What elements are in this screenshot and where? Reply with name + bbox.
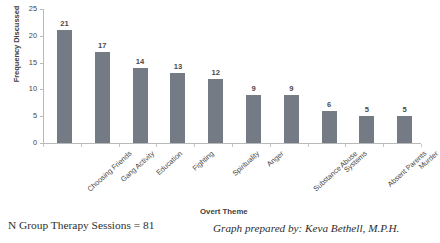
x-axis-category-label: Fighting (190, 149, 215, 173)
x-axis-tick-mark (421, 144, 422, 147)
bar-value-label: 13 (163, 62, 193, 71)
y-axis-tick-mark (40, 116, 44, 117)
y-axis-tick-label: 0 (7, 139, 37, 147)
bar-value-label: 14 (125, 57, 155, 66)
x-axis-category-label: Education (154, 149, 184, 177)
x-axis-category-label: Anger (264, 149, 284, 169)
y-axis-tick-label: 25 (7, 5, 37, 13)
bar-value-label: 9 (239, 84, 269, 93)
x-axis-tick-mark (156, 144, 157, 147)
bar (57, 30, 72, 143)
y-axis-tick-mark (40, 63, 44, 64)
y-axis-title: Frequency Discussed (12, 0, 24, 94)
bar-value-label: 9 (276, 84, 306, 93)
x-axis-tick-mark (308, 144, 309, 147)
x-axis-category-label: Substance Abuse (312, 149, 360, 193)
y-axis-tick-label: 5 (7, 112, 37, 120)
bar-value-label: 17 (87, 41, 117, 50)
bar-value-label: 12 (201, 68, 231, 77)
bar-value-label: 5 (390, 105, 420, 114)
x-axis-tick-mark (119, 144, 120, 147)
y-axis-line (43, 9, 44, 144)
y-axis-tick-mark (40, 36, 44, 37)
bar-value-label: 5 (352, 105, 382, 114)
y-axis-tick-mark (40, 9, 44, 10)
plot-area: 0510152025 211714131299655 (43, 9, 421, 144)
x-axis-tick-mark (81, 144, 82, 147)
graph-credit-note: Graph prepared by: Keva Bethell, M.P.H. (213, 222, 399, 234)
bar (208, 79, 223, 143)
x-axis-tick-mark (270, 144, 271, 147)
bar (246, 95, 261, 143)
x-axis-tick-mark (345, 144, 346, 147)
bar (170, 73, 185, 143)
x-axis-tick-mark (383, 144, 384, 147)
bar (322, 111, 337, 143)
bar-value-label: 6 (314, 100, 344, 109)
bar (95, 52, 110, 143)
y-axis-tick-label: 15 (7, 59, 37, 67)
x-axis-category-label: Spirituality (230, 149, 261, 178)
x-axis-title: Overt Theme (200, 207, 248, 216)
x-axis-tick-mark (232, 144, 233, 147)
bar (359, 116, 374, 143)
bar (397, 116, 412, 143)
bar (133, 68, 148, 143)
sample-size-note: N Group Therapy Sessions = 81 (8, 219, 154, 231)
y-axis-tick-label: 10 (7, 85, 37, 93)
bar (284, 95, 299, 143)
y-axis-tick-mark (40, 89, 44, 90)
x-axis-tick-mark (43, 144, 44, 147)
y-axis-tick-label: 20 (7, 32, 37, 40)
x-axis-tick-mark (194, 144, 195, 147)
bar-value-label: 21 (50, 19, 80, 28)
